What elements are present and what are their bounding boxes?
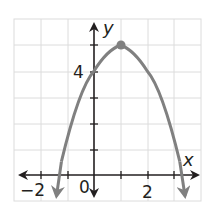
curve-arrow-left — [57, 162, 62, 196]
vertex-point — [117, 41, 126, 50]
tick-label-neg2: −2 — [20, 182, 45, 199]
tick-label-4: 4 — [73, 64, 84, 81]
tick-label-2: 2 — [142, 184, 153, 201]
grid — [14, 19, 201, 201]
axes — [20, 24, 198, 196]
x-axis-label: x — [183, 151, 194, 169]
y-axis-label: y — [103, 19, 114, 37]
tick-label-0: 0 — [79, 179, 90, 196]
